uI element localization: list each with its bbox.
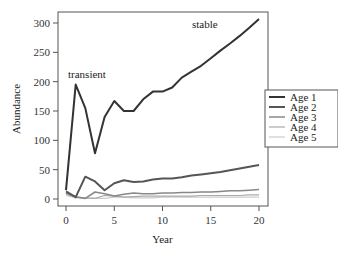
x-tick-label: 10 (157, 214, 169, 226)
annotation-stable: stable (192, 18, 218, 30)
y-tick-label: 250 (34, 46, 51, 58)
legend-label: Age 5 (290, 131, 317, 143)
y-tick-label: 0 (45, 193, 51, 205)
x-tick-label: 20 (254, 214, 266, 226)
annotation-transient: transient (68, 68, 106, 80)
y-tick-label: 50 (39, 164, 51, 176)
y-tick-label: 200 (34, 76, 51, 88)
plot-frame (58, 12, 268, 206)
series-line-age-1 (66, 19, 259, 190)
x-axis-label: Year (152, 233, 173, 245)
abundance-chart: 05010015020025030005101520YearAbundancet… (0, 0, 338, 254)
x-tick-label: 0 (63, 214, 69, 226)
x-tick-label: 5 (112, 214, 118, 226)
y-tick-label: 300 (34, 17, 51, 29)
x-tick-label: 15 (205, 214, 217, 226)
y-axis-label: Abundance (10, 84, 22, 134)
y-tick-label: 100 (34, 134, 51, 146)
y-tick-label: 150 (34, 105, 51, 117)
